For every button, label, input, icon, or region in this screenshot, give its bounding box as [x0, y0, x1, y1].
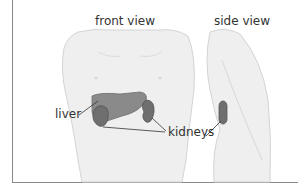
side-view-label: side view: [214, 14, 270, 28]
liver-label: liver: [55, 107, 81, 121]
kidney-right: [142, 100, 154, 122]
side-torso: [207, 29, 271, 182]
kidney-side: [219, 101, 227, 124]
kidneys-label: kidneys: [168, 125, 214, 139]
anatomy-illustration: [0, 0, 298, 190]
front-view-label: front view: [95, 14, 155, 28]
kidney-left: [93, 106, 108, 127]
